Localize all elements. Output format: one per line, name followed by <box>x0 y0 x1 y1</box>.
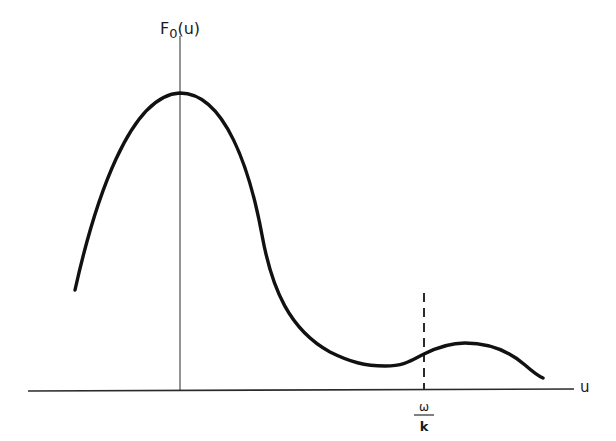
x-axis <box>28 389 574 391</box>
omega-label: ω <box>419 400 429 414</box>
y-axis-label: F0(u) <box>160 19 200 41</box>
k-label: k <box>420 419 429 434</box>
distribution-plot: F0(u) u ω k <box>0 0 616 441</box>
x-axis-label: u <box>580 378 590 396</box>
distribution-curve <box>75 93 543 378</box>
